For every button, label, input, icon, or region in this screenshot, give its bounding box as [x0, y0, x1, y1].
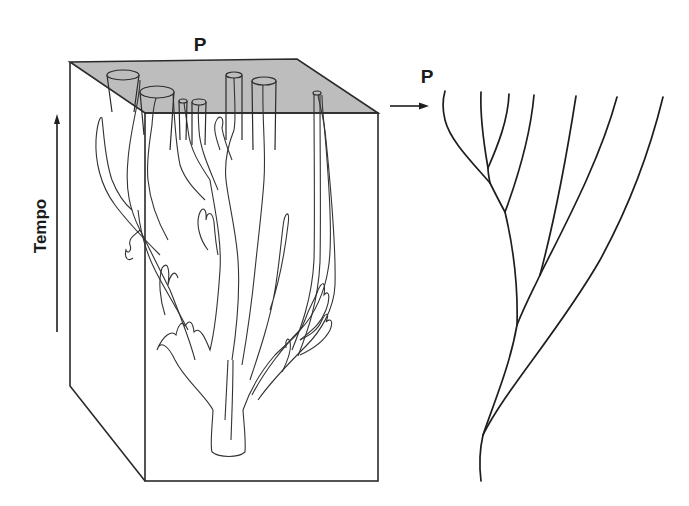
tree-branch-tip-5	[540, 96, 576, 275]
time-block	[70, 59, 378, 481]
diagram-canvas: P Tempo P	[0, 0, 689, 506]
time-axis-label: Tempo	[31, 199, 50, 253]
top-face-plane-p	[70, 59, 378, 113]
tree-branch-6-5	[517, 275, 540, 325]
tree-branch-tip-2	[481, 92, 488, 168]
time-arrow	[54, 114, 60, 332]
projection-arrow-icon	[390, 103, 429, 110]
tree-stem	[483, 325, 517, 435]
tree-trunk	[480, 435, 483, 481]
phylogenetic-tree	[443, 91, 663, 481]
tree-stem-upper	[505, 212, 517, 325]
lineage-tubes	[96, 78, 335, 457]
tree-branch-tip-3	[488, 94, 509, 168]
block-left-edge	[70, 62, 145, 481]
tree-branch-tip-4	[505, 95, 534, 212]
tree-stem-top	[490, 183, 505, 212]
tree-branch-tip-7	[483, 97, 663, 435]
block-front-face	[145, 113, 378, 481]
plane-label-top: P	[194, 34, 207, 55]
projection-label: P	[421, 66, 434, 87]
